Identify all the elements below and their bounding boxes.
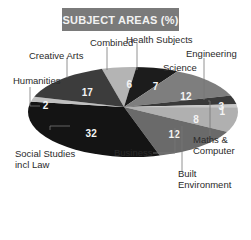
- slice-value-label: 7: [153, 81, 159, 92]
- label-health-subjects: Health Subjects: [126, 34, 193, 45]
- slice-value-label: 1: [219, 106, 225, 117]
- label-business: Business: [114, 147, 153, 158]
- label-engineering: Engineering: [186, 48, 237, 59]
- label-science: Science: [163, 62, 197, 73]
- label-creative-arts: Creative Arts: [29, 50, 83, 61]
- slice-value-label: 2: [43, 100, 49, 111]
- slice-value-label: 17: [82, 87, 94, 98]
- label-social-studies: Social Studies incl Law: [15, 148, 75, 170]
- label-built-environment: Built Environment: [178, 168, 231, 190]
- slice-value-label: 8: [193, 114, 199, 125]
- slice-value-label: 12: [180, 91, 192, 102]
- label-maths-computer: Maths & Computer: [193, 134, 235, 156]
- slice-value-label: 32: [86, 128, 98, 139]
- label-humanities: Humanities: [13, 75, 61, 86]
- slice-value-label: 12: [169, 129, 181, 140]
- slice-value-label: 6: [127, 79, 133, 90]
